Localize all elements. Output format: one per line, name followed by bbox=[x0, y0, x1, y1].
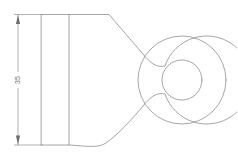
eye-bore-inner-circle bbox=[162, 60, 202, 100]
drawing-svg: 35 bbox=[0, 0, 237, 161]
eye-boss-outer-circle bbox=[138, 36, 226, 124]
neck-and-boss-outline bbox=[69, 15, 237, 147]
arrowhead-top bbox=[16, 15, 20, 24]
dimension-value-text: 35 bbox=[14, 76, 21, 84]
technical-drawing-canvas: 35 bbox=[0, 0, 237, 161]
dimension-flange-height: 35 bbox=[14, 15, 43, 146]
part-geometry-group bbox=[42, 15, 238, 147]
arrowhead-bottom bbox=[16, 136, 20, 145]
mounting-flange-rect bbox=[42, 15, 70, 146]
